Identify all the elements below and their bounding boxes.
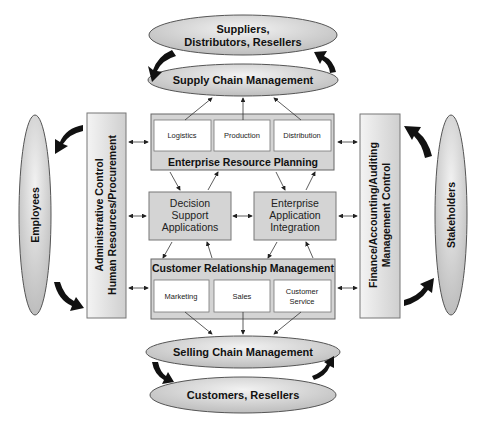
dss-label-1: Decision [170,197,210,209]
customer-service-box [274,280,331,312]
selling-chain-ellipse: Selling Chain Management [146,336,340,368]
finance-control-box: Finance/Accounting/Auditing Management C… [360,114,400,318]
dss-box: Decision Support Applications [149,192,231,240]
admin-control-box: Administrative Control Human Resources/P… [87,113,126,318]
marketing-label: Marketing [165,292,198,301]
crm-box: Customer Relationship Management Marketi… [151,259,335,319]
supply-chain-ellipse: Supply Chain Management [148,64,338,96]
admin-label-2: Human Resources/Procurement [106,135,118,295]
customer-service-label-2: Service [289,297,314,306]
suppliers-ellipse: Suppliers, Distributors, Resellers [149,15,337,55]
customers-ellipse: Customers, Resellers [150,377,336,413]
curved-arrow-icon [54,282,84,311]
curved-arrow-icon [152,362,174,384]
supply-chain-label: Supply Chain Management [173,74,314,86]
stakeholders-label: Stakeholders [445,182,457,248]
curved-arrow-icon [404,278,434,306]
right-connector-arrows [338,142,357,288]
curved-arrow-icon [404,126,432,158]
selling-chain-label: Selling Chain Management [173,346,313,358]
curved-arrow-icon [55,125,83,154]
production-label: Production [224,131,260,140]
suppliers-label-line2: Distributors, Resellers [184,36,301,48]
enterprise-systems-diagram: Suppliers, Distributors, Resellers Suppl… [0,0,478,421]
admin-label-1: Administrative Control [93,158,105,271]
employees-ellipse: Employees [19,115,51,315]
dss-label-3: Applications [162,221,219,233]
dss-label-2: Support [172,209,209,221]
customer-service-label-1: Customer [286,287,319,296]
erp-title: Enterprise Resource Planning [168,156,318,168]
logistics-label: Logistics [167,131,196,140]
finance-label-2: Management Control [380,163,392,268]
employees-label: Employees [29,187,41,243]
distribution-label: Distribution [283,131,321,140]
eai-label-3: Integration [270,221,320,233]
sales-label: Sales [233,292,252,301]
eai-label-1: Enterprise [271,197,319,209]
finance-label-1: Finance/Accounting/Auditing [367,142,379,288]
suppliers-label: Suppliers, [216,23,269,35]
crm-title: Customer Relationship Management [152,262,335,274]
eai-box: Enterprise Application Integration [254,192,336,240]
erp-box: Logistics Production Distribution Enterp… [151,114,334,170]
stakeholders-ellipse: Stakeholders [435,115,467,315]
customers-label: Customers, Resellers [187,389,300,401]
left-connector-arrows [129,142,148,288]
eai-label-2: Application [269,209,321,221]
